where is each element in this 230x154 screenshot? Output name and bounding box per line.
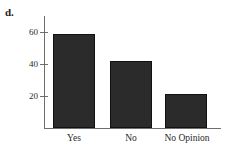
x-tick-label-no-opinion: No Opinion: [155, 133, 219, 144]
y-tick-mark-20: [40, 96, 48, 97]
bar-no: [110, 61, 152, 128]
plot-area: 60 40 20 Yes No No Opinion: [0, 0, 230, 154]
y-tick-mark-40: [40, 64, 48, 65]
y-tick-mark-60: [40, 32, 48, 33]
bar-no-opinion: [165, 94, 207, 128]
y-tick-label-40: 40: [16, 60, 38, 69]
bar-chart-figure: d. 60 40 20 Yes No No Opinion: [0, 0, 230, 154]
y-tick-label-60: 60: [16, 28, 38, 37]
x-tick-label-no: No: [106, 133, 156, 144]
bar-yes: [53, 34, 95, 128]
x-axis-line: [44, 128, 221, 129]
y-tick-label-20: 20: [16, 92, 38, 101]
x-tick-label-yes: Yes: [49, 133, 99, 144]
